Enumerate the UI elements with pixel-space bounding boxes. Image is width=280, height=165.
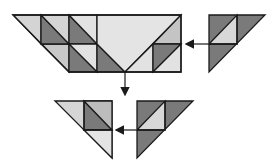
puzzle-diagram [0, 0, 280, 165]
bottom-right-triangle-figure [137, 101, 193, 158]
top-right-triangle-figure [209, 15, 265, 72]
bottom-left-triangle-figure [55, 101, 112, 158]
top-trapezoid-figure [13, 15, 181, 72]
